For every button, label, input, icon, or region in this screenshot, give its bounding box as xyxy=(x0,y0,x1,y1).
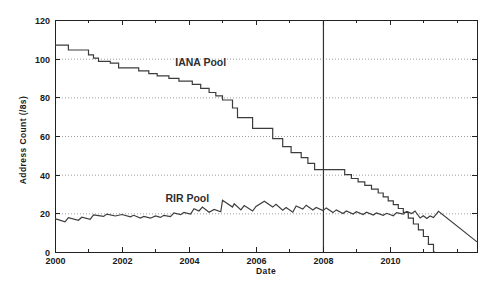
x-tick-label: 2010 xyxy=(380,256,400,266)
y-tick-label: 0 xyxy=(45,248,50,258)
x-tick-label: 2006 xyxy=(246,256,266,266)
y-tick-label: 60 xyxy=(40,132,50,142)
plot-area: 200020022004200620082010020406080100120I… xyxy=(0,0,501,287)
y-tick-label: 100 xyxy=(35,55,50,65)
x-tick-label: 2002 xyxy=(112,256,132,266)
x-tick-label: 2000 xyxy=(45,256,65,266)
y-tick-label: 20 xyxy=(40,209,50,219)
x-axis-title: Date xyxy=(55,266,477,276)
series-iana-pool-line xyxy=(55,45,435,252)
y-tick-label: 40 xyxy=(40,171,50,181)
x-tick-label: 2004 xyxy=(179,256,199,266)
y-tick-label: 80 xyxy=(40,93,50,103)
ipv4-pool-depletion-chart: Address Count (/8s) 20002002200420062008… xyxy=(0,0,501,287)
y-tick-label: 120 xyxy=(35,16,50,26)
series-label-iana-pool: IANA Pool xyxy=(175,56,226,68)
series-label-rir-pool: RIR Pool xyxy=(165,192,209,204)
x-tick-label: 2008 xyxy=(313,256,333,266)
